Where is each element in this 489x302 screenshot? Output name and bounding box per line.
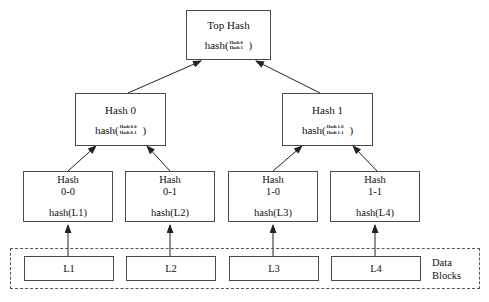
hash-close-paren: ) xyxy=(249,39,253,51)
node-hash-1-title: Hash 1 xyxy=(312,104,343,117)
data-blocks-label: Data Blocks xyxy=(432,256,482,282)
node-top-hash: Top Hash hash( Hash 0 Hash 1 ) xyxy=(186,10,271,60)
edge-hash11-to-hash1 xyxy=(353,146,377,171)
node-hash-1-formula: hash( Hash 1-0 Hash 1-1 ) xyxy=(302,124,353,136)
data-block-l2: L2 xyxy=(126,256,216,281)
arg-1: Hash 0-1 xyxy=(120,130,137,135)
hash-open-paren: hash( xyxy=(95,124,119,136)
node-hash-0-0-line2: 0-0 xyxy=(61,186,75,198)
edge-hash0-to-top xyxy=(128,61,201,93)
node-hash-0-1: Hash 0-1 hash(L2) xyxy=(125,171,215,222)
node-hash-1-1: Hash 1-1 hash(L4) xyxy=(330,171,420,222)
data-block-l3-label: L3 xyxy=(268,263,280,274)
node-hash-1-0-line1: Hash xyxy=(262,174,284,186)
node-hash-1: Hash 1 hash( Hash 1-0 Hash 1-1 ) xyxy=(282,93,373,146)
data-blocks-label-line2: Blocks xyxy=(432,269,482,282)
hash-open-paren: hash( xyxy=(302,124,326,136)
node-hash-1-1-line2: 1-1 xyxy=(368,186,382,198)
node-top-hash-args: Hash 0 Hash 1 xyxy=(230,40,243,51)
node-hash-0-1-line2: 0-1 xyxy=(163,186,177,198)
node-hash-1-1-line1: Hash xyxy=(364,174,386,186)
node-hash-0-0: Hash 0-0 hash(L1) xyxy=(23,171,113,222)
data-block-l1-label: L1 xyxy=(63,263,75,274)
data-block-l1: L1 xyxy=(24,256,114,281)
node-hash-1-0-line2: 1-0 xyxy=(266,186,280,198)
hash-close-paren: ) xyxy=(349,124,353,136)
node-hash-0-0-line1: Hash xyxy=(57,174,79,186)
node-hash-0-formula: hash( Hash 0-0 Hash 0-1 ) xyxy=(95,124,146,136)
edge-hash10-to-hash1 xyxy=(273,146,302,171)
node-hash-0: Hash 0 hash( Hash 0-0 Hash 0-1 ) xyxy=(75,93,166,146)
node-hash-0-title: Hash 0 xyxy=(105,104,136,117)
node-hash-1-0: Hash 1-0 hash(L3) xyxy=(228,171,318,222)
data-block-l4: L4 xyxy=(331,256,421,281)
node-hash-1-args: Hash 1-0 Hash 1-1 xyxy=(327,124,344,135)
arg-1: Hash 1-1 xyxy=(327,130,344,135)
data-blocks-label-line1: Data xyxy=(432,256,482,269)
data-block-l2-label: L2 xyxy=(165,263,177,274)
node-hash-0-1-line1: Hash xyxy=(159,174,181,186)
node-hash-1-0-formula: hash(L3) xyxy=(254,207,292,219)
edge-hash00-to-hash0 xyxy=(68,146,96,171)
merkle-tree-diagram: Top Hash hash( Hash 0 Hash 1 ) Hash 0 ha… xyxy=(0,0,489,302)
node-top-hash-title: Top Hash xyxy=(207,19,249,32)
edge-hash1-to-top xyxy=(256,61,320,93)
hash-open-paren: hash( xyxy=(205,39,229,51)
node-top-hash-formula: hash( Hash 0 Hash 1 ) xyxy=(205,39,253,51)
node-hash-1-1-formula: hash(L4) xyxy=(356,207,394,219)
data-block-l3: L3 xyxy=(229,256,319,281)
edge-hash01-to-hash0 xyxy=(147,146,170,171)
node-hash-0-0-formula: hash(L1) xyxy=(49,207,87,219)
data-block-l4-label: L4 xyxy=(370,263,382,274)
arg-1: Hash 1 xyxy=(230,45,243,50)
node-hash-0-1-formula: hash(L2) xyxy=(151,207,189,219)
node-hash-0-args: Hash 0-0 Hash 0-1 xyxy=(120,124,137,135)
hash-close-paren: ) xyxy=(142,124,146,136)
